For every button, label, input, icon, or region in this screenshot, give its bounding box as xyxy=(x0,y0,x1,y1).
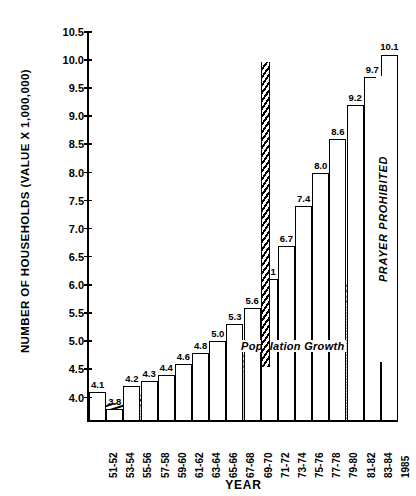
bar[interactable] xyxy=(141,381,158,420)
bar-value-label: 9.2 xyxy=(345,93,366,103)
y-tick-label: 10.0 xyxy=(50,55,84,65)
y-tick-mark xyxy=(84,312,92,314)
x-tick-label: 77-78 xyxy=(331,422,342,478)
bar-value-label: 7.4 xyxy=(293,194,314,204)
y-tick-label: 8.5 xyxy=(50,139,84,149)
bar-value-label: 4.1 xyxy=(87,380,108,390)
y-tick-mark xyxy=(84,284,92,286)
y-tick-label: 6.0 xyxy=(50,280,84,290)
y-tick-label: 4.5 xyxy=(50,364,84,374)
y-tick-label: 4.0 xyxy=(50,393,84,403)
bar-value-label: 5.0 xyxy=(207,329,228,339)
y-tick-mark xyxy=(84,340,92,342)
plot-area: 4.13.84.24.34.44.64.85.05.35.66.16.77.48… xyxy=(89,32,398,420)
y-tick-label: 9.0 xyxy=(50,111,84,121)
bar-value-label: 5.6 xyxy=(242,296,263,306)
bar-value-label: 10.1 xyxy=(379,42,400,52)
x-tick-label: 65-66 xyxy=(228,422,239,478)
y-axis-tick-labels: 10.510.09.59.08.58.07.57.06.56.05.55.04.… xyxy=(46,0,84,496)
x-tick-label: 79-80 xyxy=(348,422,359,478)
y-tick-label: 6.5 xyxy=(50,252,84,262)
x-tick-label: 63-64 xyxy=(211,422,222,478)
bar[interactable] xyxy=(312,173,329,420)
bar-value-label: 8.0 xyxy=(310,161,331,171)
y-tick-mark xyxy=(84,200,92,202)
y-tick-label: 10.5 xyxy=(50,27,84,37)
y-tick-mark xyxy=(84,228,92,230)
bar[interactable] xyxy=(175,364,192,420)
bar[interactable] xyxy=(158,375,175,420)
y-tick-mark xyxy=(84,397,92,399)
y-tick-mark xyxy=(84,59,92,61)
x-axis-tick-labels: 51-5253-5455-5657-5859-6061-6263-6465-66… xyxy=(89,422,398,478)
y-tick-label: 7.5 xyxy=(50,196,84,206)
x-tick-label: 83-84 xyxy=(383,422,394,478)
x-tick-label: 51-52 xyxy=(108,422,119,478)
x-tick-label: 71-72 xyxy=(280,422,291,478)
y-tick-mark xyxy=(84,256,92,258)
x-tick-label: 69-70 xyxy=(263,422,274,478)
bar[interactable] xyxy=(226,324,243,420)
x-tick-label: 67-68 xyxy=(245,422,256,478)
bar-value-label: 3.8 xyxy=(104,397,125,407)
y-axis-title: NUMBER OF HOUSEHOLDS (VALUE X 1,000,000) xyxy=(19,16,31,406)
y-tick-label: 5.5 xyxy=(50,308,84,318)
bar-value-label: 5.3 xyxy=(224,312,245,322)
bar[interactable] xyxy=(209,341,226,420)
bar[interactable] xyxy=(244,308,261,420)
x-tick-label: 81-82 xyxy=(366,422,377,478)
x-tick-label: 57-58 xyxy=(160,422,171,478)
x-tick-label: 73-74 xyxy=(297,422,308,478)
y-tick-label: 5.0 xyxy=(50,336,84,346)
bar[interactable] xyxy=(295,206,312,420)
x-tick-label: 75-76 xyxy=(314,422,325,478)
prayer-prohibited-label: PRAYER PROHIBITED xyxy=(376,76,390,362)
x-tick-label: 61-62 xyxy=(194,422,205,478)
y-tick-mark xyxy=(84,172,92,174)
bar-value-label: 9.7 xyxy=(362,65,383,75)
y-tick-mark xyxy=(84,87,92,89)
y-tick-label: 8.0 xyxy=(50,168,84,178)
bar[interactable] xyxy=(192,353,209,420)
x-tick-label: 59-60 xyxy=(177,422,188,478)
bar[interactable] xyxy=(123,386,140,420)
y-tick-mark xyxy=(84,115,92,117)
bar-value-label: 4.8 xyxy=(190,341,211,351)
bar-value-label: 4.4 xyxy=(156,363,177,373)
y-tick-label: 9.5 xyxy=(50,83,84,93)
y-tick-label: 7.0 xyxy=(50,224,84,234)
bar-value-label: 6.7 xyxy=(276,234,297,244)
bar-value-label: 8.6 xyxy=(327,127,348,137)
y-tick-mark xyxy=(84,31,92,33)
bar-value-label: 4.6 xyxy=(173,352,194,362)
bar-chart: NUMBER OF HOUSEHOLDS (VALUE X 1,000,000)… xyxy=(0,0,416,496)
x-tick-label: 1985 xyxy=(400,422,411,478)
bar[interactable] xyxy=(347,105,364,420)
y-tick-mark xyxy=(84,368,92,370)
x-tick-label: 55-56 xyxy=(142,422,153,478)
prayer-prohibited-band: PRAYER PROHIBITED xyxy=(261,62,270,367)
bar[interactable] xyxy=(106,409,123,420)
x-axis-title: YEAR xyxy=(89,478,398,492)
bar[interactable] xyxy=(329,139,346,420)
population-growth-label: Population Growth xyxy=(239,340,346,352)
y-tick-mark xyxy=(84,143,92,145)
x-tick-label: 53-54 xyxy=(125,422,136,478)
bar[interactable] xyxy=(278,246,295,420)
